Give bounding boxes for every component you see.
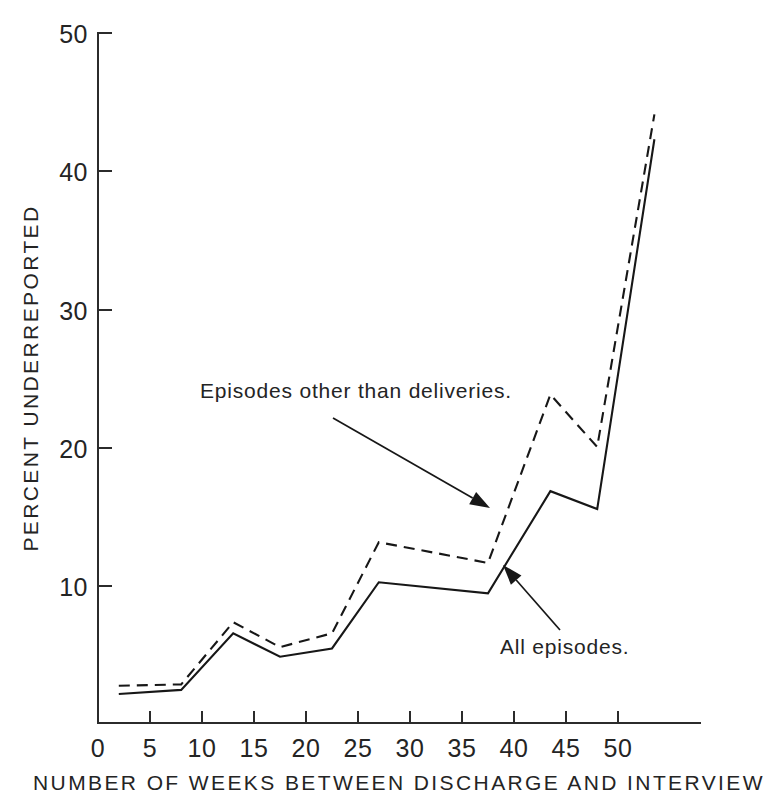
x-axis-title: NUMBER OF WEEKS BETWEEN DISCHARGE AND IN… xyxy=(33,771,765,794)
annotation-arrowhead-episodes-other xyxy=(469,492,490,508)
y-tick-label-20: 20 xyxy=(59,435,88,463)
line-chart: 50 40 30 20 10 0 5 10 15 20 25 3 xyxy=(0,0,780,797)
annotation-episodes-other-than-deliveries: Episodes other than deliveries. xyxy=(200,379,512,508)
y-axis-title: PERCENT UNDERREPORTED xyxy=(19,204,42,551)
chart-figure: 50 40 30 20 10 0 5 10 15 20 25 3 xyxy=(0,0,780,797)
x-tick-label-45: 45 xyxy=(552,734,581,762)
y-tick-marks xyxy=(98,33,112,586)
x-tick-label-30: 30 xyxy=(396,734,425,762)
x-tick-label-40: 40 xyxy=(500,734,529,762)
annotation-all-episodes: All episodes. xyxy=(500,565,629,658)
y-tick-labels: 50 40 30 20 10 xyxy=(59,20,88,601)
annotation-label-all-episodes: All episodes. xyxy=(500,635,629,658)
y-tick-label-50: 50 xyxy=(59,20,88,48)
x-tick-marks xyxy=(150,711,618,723)
x-tick-label-25: 25 xyxy=(344,734,373,762)
x-tick-label-50: 50 xyxy=(604,734,633,762)
series-line-all-episodes xyxy=(119,139,655,694)
x-tick-label-35: 35 xyxy=(448,734,477,762)
y-tick-label-40: 40 xyxy=(59,158,88,186)
x-tick-label-20: 20 xyxy=(292,734,321,762)
x-tick-label-10: 10 xyxy=(188,734,217,762)
x-tick-label-0: 0 xyxy=(91,734,105,762)
x-tick-label-15: 15 xyxy=(240,734,269,762)
y-tick-label-30: 30 xyxy=(59,297,88,325)
y-tick-label-10: 10 xyxy=(59,573,88,601)
annotation-arrow-all-episodes xyxy=(516,580,560,630)
annotation-label-episodes-other: Episodes other than deliveries. xyxy=(200,379,512,402)
x-tick-labels: 0 5 10 15 20 25 30 35 40 45 50 xyxy=(91,734,633,762)
annotation-arrow-episodes-other xyxy=(333,418,473,498)
x-tick-label-5: 5 xyxy=(143,734,157,762)
